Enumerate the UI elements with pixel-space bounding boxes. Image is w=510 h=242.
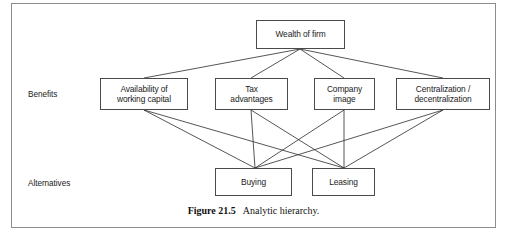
row-label-alternatives: Alternatives [28, 179, 70, 188]
node-company-image-label: Company image [327, 84, 362, 105]
edge-wealth-availability [144, 49, 300, 78]
edge-tax-buying [251, 110, 255, 168]
node-line-1: Tax [245, 84, 258, 94]
figure-caption-text: Analytic hierarchy. [243, 205, 320, 216]
node-line-2: advantages [230, 94, 272, 104]
node-company-image[interactable]: Company image [314, 78, 375, 110]
node-line-2: working capital [117, 94, 171, 104]
edge-availability-leasing [144, 110, 344, 168]
node-buying-label: Buying [241, 177, 266, 188]
figure-caption-number: Figure 21.5 [188, 205, 236, 216]
node-wealth-of-firm[interactable]: Wealth of firm [256, 20, 345, 49]
figure-caption: Figure 21.5Analytic hierarchy. [11, 205, 496, 216]
node-tax-advantages-label: Tax advantages [230, 84, 272, 105]
node-centralization-decentralization[interactable]: Centralization / decentralization [396, 78, 490, 110]
row-label-benefits: Benefits [28, 90, 57, 99]
node-wealth-of-firm-label: Wealth of firm [275, 29, 325, 40]
node-leasing-label: Leasing [329, 177, 358, 188]
node-line-1: Availability of [120, 84, 167, 94]
figure-page: Benefits Alternatives Wealth of firm Ava… [0, 0, 510, 242]
edge-centralization-buying [255, 110, 443, 168]
node-line-2: decentralization [414, 94, 471, 104]
node-line-2: image [333, 94, 355, 104]
node-centralization-decentralization-label: Centralization / decentralization [414, 84, 471, 105]
node-availability-of-working-capital[interactable]: Availability of working capital [100, 78, 188, 110]
node-tax-advantages[interactable]: Tax advantages [215, 78, 288, 110]
node-buying[interactable]: Buying [215, 168, 292, 196]
edge-centralization-leasing [344, 110, 443, 168]
node-line-1: Centralization / [416, 84, 470, 94]
node-availability-of-working-capital-label: Availability of working capital [117, 84, 171, 105]
node-leasing[interactable]: Leasing [312, 168, 375, 196]
edge-availability-buying [144, 110, 255, 168]
node-line-1: Company [327, 84, 362, 94]
